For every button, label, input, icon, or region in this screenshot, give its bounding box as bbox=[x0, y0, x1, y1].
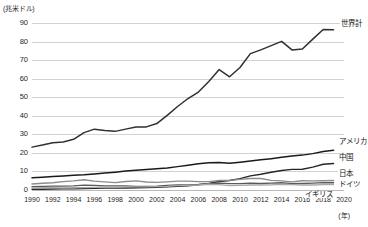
y-tick-label-30: 30 bbox=[2, 130, 28, 138]
series-label-イギリス: イギリス bbox=[304, 191, 334, 199]
series-label-日本: 日本 bbox=[338, 170, 354, 178]
series-label-アメリカ: アメリカ bbox=[338, 138, 368, 146]
y-tick-label-80: 80 bbox=[2, 38, 28, 46]
y-axis-unit-label: (兆米ドル) bbox=[3, 3, 34, 13]
gridline-0 bbox=[32, 190, 344, 191]
y-tick-label-0: 0 bbox=[2, 186, 28, 194]
y-tick-label-40: 40 bbox=[2, 112, 28, 120]
y-tick-label-60: 60 bbox=[2, 75, 28, 83]
y-tick-label-50: 50 bbox=[2, 93, 28, 101]
series-line-アメリカ bbox=[32, 150, 334, 177]
x-axis-unit-label: (年) bbox=[338, 210, 350, 220]
plot-area bbox=[32, 23, 344, 190]
series-label-世界計: 世界計 bbox=[340, 20, 363, 28]
x-tick-label-2020: 2020 bbox=[331, 196, 357, 203]
series-layer bbox=[32, 23, 344, 190]
y-tick-label-70: 70 bbox=[2, 56, 28, 64]
series-line-世界計 bbox=[32, 29, 334, 147]
y-tick-label-90: 90 bbox=[2, 19, 28, 27]
y-tick-label-10: 10 bbox=[2, 167, 28, 175]
series-label-中国: 中国 bbox=[338, 154, 354, 162]
series-label-ドイツ: ドイツ bbox=[338, 181, 361, 189]
y-tick-label-20: 20 bbox=[2, 149, 28, 157]
